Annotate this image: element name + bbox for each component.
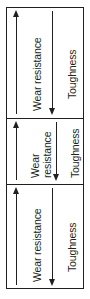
toughness-label-top: Toughness bbox=[67, 50, 79, 99]
arrow-shaft bbox=[56, 122, 57, 176]
arrow-head-down-icon bbox=[49, 279, 55, 286]
wear-resistance-label-middle-line1: Wear bbox=[30, 154, 42, 178]
arrow-head-down-icon bbox=[53, 174, 59, 181]
arrow-head-down-icon bbox=[49, 108, 55, 115]
arrow-shaft bbox=[16, 126, 17, 180]
diagram-canvas: Wear resistance Toughness Wear resistanc… bbox=[0, 0, 90, 299]
arrow-head-up-icon bbox=[13, 187, 19, 194]
arrow-shaft bbox=[16, 192, 17, 285]
wear-resistance-label-top: Wear resistance bbox=[32, 38, 44, 111]
arrow-shaft bbox=[52, 11, 53, 110]
panel-top: Wear resistance Toughness bbox=[6, 7, 84, 118]
wear-resistance-label-bottom: Wear resistance bbox=[32, 209, 44, 282]
wear-resistance-label-middle-line2: resistance bbox=[42, 132, 54, 178]
arrow-shaft bbox=[52, 188, 53, 281]
arrow-shaft bbox=[16, 15, 17, 114]
arrow-head-up-icon bbox=[13, 10, 19, 17]
panel-bottom: Wear resistance Toughness bbox=[6, 184, 84, 289]
toughness-label-middle: Toughness bbox=[70, 129, 82, 178]
panel-middle: Wear resistance Toughness bbox=[6, 118, 84, 184]
toughness-label-bottom: Toughness bbox=[67, 223, 79, 272]
arrow-head-up-icon bbox=[13, 121, 19, 128]
